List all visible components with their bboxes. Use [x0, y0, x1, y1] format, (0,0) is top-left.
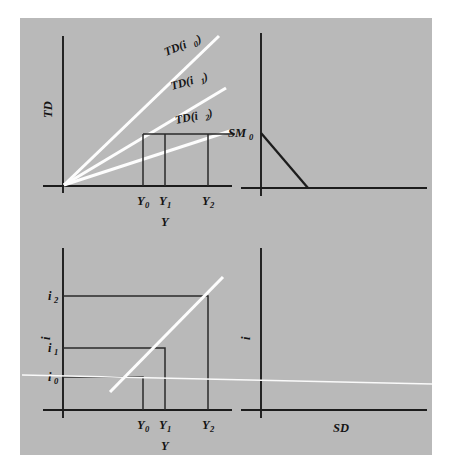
- bottom-right-x-axis-label: SD: [333, 421, 349, 435]
- tick-label-yb2-sub: 2: [209, 424, 215, 434]
- panel-top-left: TD Y 0 Y 1 Y 2 Y TD(i 0 ) TD(i 1 ) TD(i: [41, 31, 235, 229]
- tick-label-i2: i: [48, 289, 52, 303]
- bottom-left-y-axis-label: i: [39, 336, 53, 340]
- horizontal-white-reference-line: [22, 375, 432, 384]
- figure-root: TD Y 0 Y 1 Y 2 Y TD(i 0 ) TD(i 1 ) TD(i: [0, 0, 453, 476]
- panel-top-right: SM 0: [228, 33, 427, 196]
- four-quadrant-diagram: TD Y 0 Y 1 Y 2 Y TD(i 0 ) TD(i 1 ) TD(i: [0, 0, 453, 476]
- tick-label-i2-sub: 2: [53, 295, 59, 305]
- td-i0-label: TD(i: [162, 37, 189, 59]
- bottom-right-y-axis-label: i: [239, 336, 253, 340]
- td-i1-curve: [64, 88, 226, 185]
- sm0-label: SM: [228, 126, 247, 140]
- is-curve: [110, 277, 223, 392]
- bottom-left-x-axis-label: Y: [161, 439, 170, 453]
- top-left-y-axis-label: TD: [41, 101, 55, 118]
- tick-label-i0: i: [48, 370, 52, 384]
- td-i1-label-group: TD(i 1 ): [169, 69, 210, 95]
- tick-label-y2-sub: 2: [209, 200, 215, 210]
- td-i2-label: TD(i: [174, 108, 200, 127]
- sm0-curve: [261, 133, 308, 188]
- tick-label-i1: i: [48, 341, 52, 355]
- tick-label-i0-sub: 0: [54, 376, 59, 386]
- tick-label-y1-sub: 1: [167, 200, 171, 210]
- tick-label-i1-sub: 1: [54, 347, 58, 357]
- top-left-x-axis-label: Y: [161, 215, 170, 229]
- tick-label-y0-sub: 0: [145, 200, 150, 210]
- panel-bottom-right: i SD: [239, 248, 427, 435]
- td-i2-curve: [64, 131, 230, 185]
- rect-y0-i0: [63, 377, 143, 410]
- tick-label-yb1-sub: 1: [167, 424, 171, 434]
- tick-label-yb0-sub: 0: [145, 424, 150, 434]
- panel-bottom-left: i i 2 i 1 i 0 Y 0 Y 1 Y 2 Y: [39, 248, 232, 453]
- td-i1-label: TD(i: [169, 73, 196, 93]
- sm0-label-sub: 0: [249, 132, 254, 142]
- rect-y1-i1: [63, 348, 165, 410]
- td-i2-label-group: TD(i 2 ): [174, 105, 214, 129]
